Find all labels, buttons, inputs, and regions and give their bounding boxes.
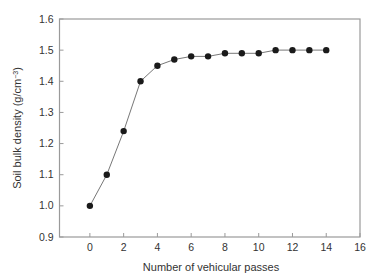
data-point-marker — [104, 172, 110, 178]
y-tick-label: 0.9 — [39, 231, 54, 243]
y-tick-label: 1.2 — [39, 137, 54, 149]
data-series — [87, 47, 330, 209]
data-point-marker — [205, 53, 211, 59]
data-point-marker — [239, 50, 245, 56]
data-point-marker — [188, 53, 194, 59]
data-point-marker — [323, 47, 329, 53]
x-tick-label: 8 — [222, 241, 228, 253]
y-tick-label: 1.3 — [39, 106, 54, 118]
data-point-marker — [306, 47, 312, 53]
y-tick-label: 1.1 — [39, 168, 54, 180]
x-tick-label: 16 — [354, 241, 366, 253]
data-point-marker — [289, 47, 295, 53]
line-chart: 0246810121416 0.91.01.11.21.31.41.51.6 N… — [0, 0, 381, 280]
plot-frame — [60, 19, 361, 237]
x-tick-label: 10 — [253, 241, 265, 253]
y-tick-label: 1.0 — [39, 199, 54, 211]
y-axis-label: Soil bulk density (g/cm−3) — [11, 67, 23, 189]
series-line — [90, 50, 326, 206]
y-tick-label: 1.4 — [39, 75, 54, 87]
x-tick-label: 2 — [121, 241, 127, 253]
data-point-marker — [137, 78, 143, 84]
y-tick-label: 1.5 — [39, 44, 54, 56]
y-tick-label: 1.6 — [39, 13, 54, 25]
data-point-marker — [171, 56, 177, 62]
x-tick-label: 4 — [154, 241, 160, 253]
x-axis-label: Number of vehicular passes — [143, 261, 280, 273]
data-point-marker — [272, 47, 278, 53]
data-point-marker — [256, 50, 262, 56]
data-point-marker — [87, 203, 93, 209]
x-tick-label: 12 — [287, 241, 299, 253]
plot-border — [60, 19, 361, 237]
x-tick-label: 6 — [188, 241, 194, 253]
x-axis-ticks: 0246810121416 — [87, 233, 366, 253]
data-point-marker — [120, 128, 126, 134]
data-point-marker — [154, 63, 160, 69]
data-point-marker — [222, 50, 228, 56]
x-tick-label: 0 — [87, 241, 93, 253]
x-tick-label: 14 — [320, 241, 332, 253]
